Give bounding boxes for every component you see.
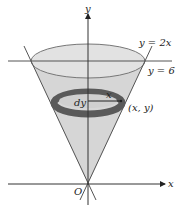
cone-volume-diagram: y x O y = 2x y = 6 dy x (x, y) xyxy=(0,0,181,208)
origin-label: O xyxy=(74,186,82,197)
radius-label: x xyxy=(106,89,112,100)
x-axis-label: x xyxy=(168,178,174,189)
dy-label: dy xyxy=(74,97,86,108)
point-xy xyxy=(120,100,122,102)
y-axis-label: y xyxy=(84,3,91,14)
point-label: (x, y) xyxy=(128,102,154,113)
line-cone-label: y = 2x xyxy=(138,37,172,48)
line-top-label: y = 6 xyxy=(147,65,175,76)
